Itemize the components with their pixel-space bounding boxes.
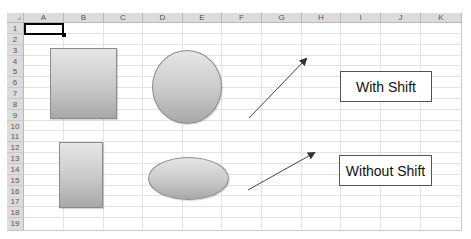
with-shift-label: With Shift <box>356 79 416 95</box>
arrows-layer <box>0 0 471 239</box>
arrow-without-shift[interactable] <box>248 153 314 190</box>
with-shift-textbox[interactable]: With Shift <box>340 71 432 102</box>
arrow-with-shift[interactable] <box>249 59 306 118</box>
without-shift-label: Without Shift <box>346 163 425 179</box>
without-shift-textbox[interactable]: Without Shift <box>339 155 432 186</box>
